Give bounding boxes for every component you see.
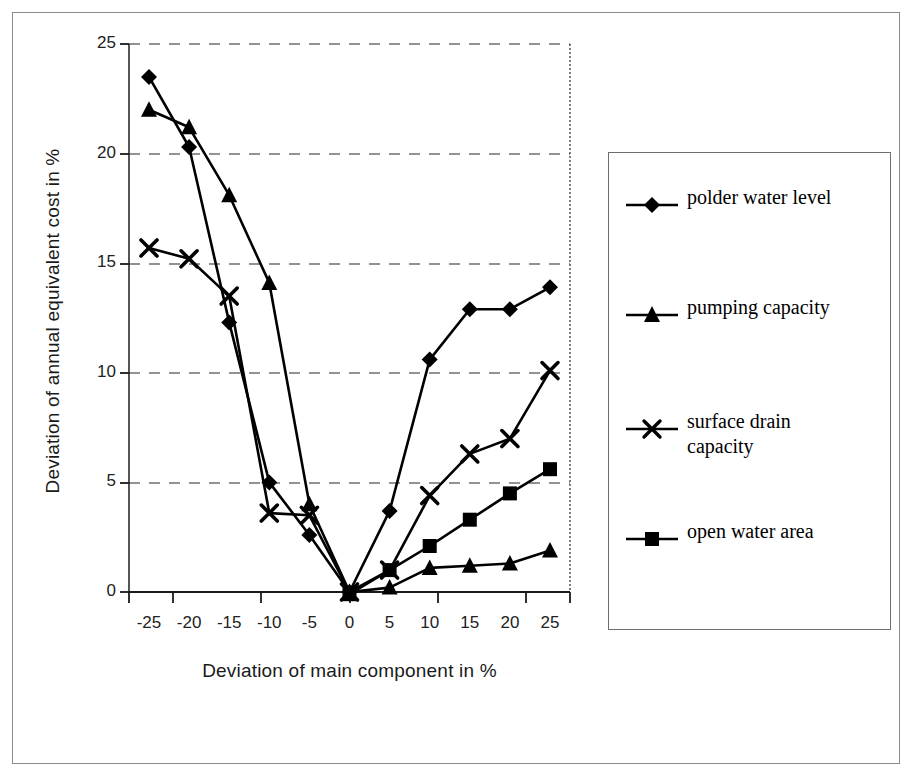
legend-label: polder water level (681, 185, 831, 210)
legend-label: pumping capacity (681, 295, 830, 320)
y-axis-title: Deviation of annual equivalent cost in % (42, 101, 64, 541)
x-tick-label: 15 (448, 613, 492, 633)
data-point-square (423, 539, 437, 553)
y-tick-label: 20 (76, 143, 116, 163)
x-tick-label: -5 (287, 613, 331, 633)
legend-entry[interactable]: surface drain capacity (623, 409, 885, 459)
triangle-marker-icon (623, 296, 681, 318)
y-tick-label: 25 (76, 33, 116, 53)
legend-label: surface drain capacity (681, 409, 791, 459)
data-point-square (383, 563, 397, 577)
y-tick-label: 10 (76, 362, 116, 382)
legend-entry[interactable]: pumping capacity (623, 295, 885, 320)
data-point-square (343, 587, 357, 601)
x-axis-title: Deviation of main component in % (129, 660, 570, 682)
data-point-square (543, 462, 557, 476)
x-tick-label: -10 (247, 613, 291, 633)
legend-entry[interactable]: polder water level (623, 185, 885, 210)
data-point-square (463, 513, 477, 527)
cross-marker-icon (623, 410, 681, 432)
square-marker-icon (623, 520, 681, 542)
y-tick-label: 5 (76, 471, 116, 491)
legend-entry[interactable]: open water area (623, 519, 885, 544)
chart-legend: polder water levelpumping capacitysurfac… (608, 152, 891, 630)
x-tick-label: -20 (167, 613, 211, 633)
x-tick-label: 0 (328, 613, 372, 633)
y-tick-label: 0 (76, 581, 116, 601)
x-tick-label: -25 (127, 613, 171, 633)
x-tick-label: 5 (368, 613, 412, 633)
legend-label: open water area (681, 519, 814, 544)
x-tick-label: 10 (408, 613, 452, 633)
y-axis-ticks (120, 44, 129, 592)
y-tick-label: 15 (76, 252, 116, 272)
x-tick-label: 25 (528, 613, 572, 633)
plot-background (129, 44, 570, 592)
chart-figure: Deviation of main component in % Deviati… (0, 0, 915, 778)
x-tick-label: 20 (488, 613, 532, 633)
x-tick-label: -15 (207, 613, 251, 633)
data-point-square (503, 486, 517, 500)
diamond-marker-icon (623, 186, 681, 208)
